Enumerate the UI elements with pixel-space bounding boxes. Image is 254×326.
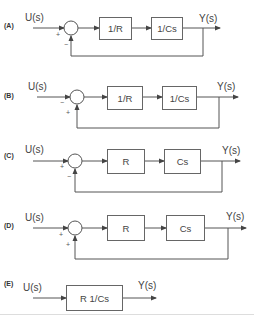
block-b-2: 1/Cs: [162, 86, 197, 110]
sign-feedback-c: −: [67, 173, 71, 180]
output-label-a: Y(s): [199, 14, 217, 24]
option-label-d: (D): [4, 222, 14, 229]
output-label-c: Y(s): [222, 146, 240, 156]
sign-feedback-a: −: [64, 41, 68, 48]
block-b-1: 1/R: [107, 86, 143, 110]
block-d-1-label: R: [123, 223, 130, 234]
block-d-2-label: Cs: [180, 223, 192, 234]
option-label-b: (B): [4, 92, 14, 99]
block-e-1: R 1/Cs: [66, 285, 123, 311]
input-label-a: U(s): [25, 13, 44, 23]
option-label-c: (C): [4, 152, 14, 159]
input-label-c: U(s): [25, 145, 44, 155]
block-c-2: Cs: [164, 149, 201, 174]
sign-input-a: +: [56, 31, 60, 38]
block-c-1: R: [107, 149, 145, 174]
block-c-1-label: R: [123, 156, 130, 167]
sign-feedback-d: +: [66, 241, 70, 248]
block-e-1-label: R 1/Cs: [80, 293, 109, 304]
sign-input-d: +: [59, 231, 63, 238]
block-a-1-label: 1/R: [108, 23, 123, 34]
block-d-2: Cs: [166, 215, 205, 241]
divider: [0, 314, 254, 315]
input-label-b: U(s): [28, 82, 47, 92]
input-label-e: U(s): [23, 283, 42, 293]
sign-feedback-b: +: [66, 109, 70, 116]
input-label-d: U(s): [25, 213, 44, 223]
block-b-2-label: 1/Cs: [170, 93, 190, 104]
block-a-2: 1/Cs: [151, 17, 183, 40]
output-label-b: Y(s): [217, 82, 235, 92]
block-b-1-label: 1/R: [118, 93, 133, 104]
block-a-1: 1/R: [99, 17, 132, 40]
output-label-e: Y(s): [138, 281, 156, 291]
block-c-2-label: Cs: [177, 156, 189, 167]
option-label-a: (A): [4, 22, 14, 29]
block-a-2-label: 1/Cs: [157, 23, 177, 34]
output-label-d: Y(s): [226, 212, 244, 222]
block-d-1: R: [107, 215, 145, 241]
sign-input-b: −: [60, 99, 64, 106]
option-label-e: (E): [4, 280, 13, 287]
sign-input-c: +: [60, 163, 64, 170]
